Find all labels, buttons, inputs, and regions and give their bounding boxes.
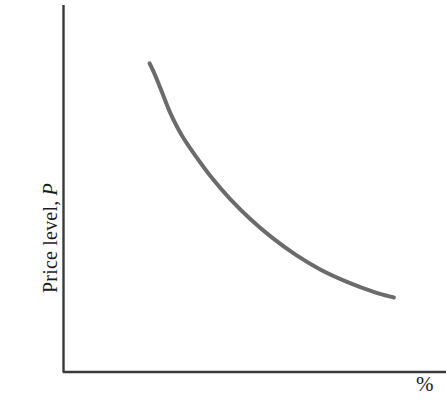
demand-curve	[150, 63, 394, 297]
plot-canvas	[0, 0, 446, 416]
x-axis-label: %	[416, 374, 434, 395]
y-axis-label-variable: P	[39, 183, 61, 195]
chart-figure: Price level, P %	[0, 0, 446, 416]
y-axis-label-text: Price level,	[39, 195, 61, 293]
y-axis-label: Price level, P	[40, 73, 60, 293]
